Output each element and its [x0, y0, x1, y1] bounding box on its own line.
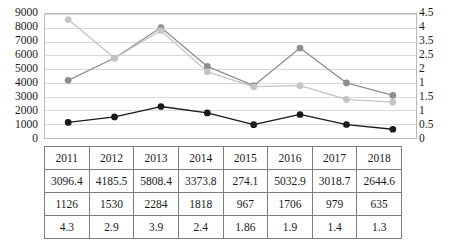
left-axis-tick-8: 1000 [15, 119, 38, 130]
table-header-cell: 2016 [268, 147, 313, 170]
data-point-marker [343, 96, 350, 103]
data-point-marker [111, 114, 118, 121]
table-cell: 1126 [45, 193, 90, 216]
table-header-cell: 2014 [178, 147, 223, 170]
gridline [45, 138, 416, 139]
table-cell: 2644.6 [357, 170, 402, 193]
right-axis-tick-3: 2.5 [419, 49, 433, 60]
table-cell: 1818 [178, 193, 223, 216]
data-point-marker [65, 16, 72, 23]
table-cell: 2.4 [178, 216, 223, 239]
data-point-marker [158, 27, 165, 34]
table-cell: 1.4 [312, 216, 357, 239]
table-cell: 1.86 [223, 216, 268, 239]
plot-area [44, 13, 417, 139]
left-axis-tick-0: 9000 [15, 7, 38, 18]
table-cell: 635 [357, 193, 402, 216]
right-y-axis: 4.543.52.5211.510.50 [419, 0, 464, 143]
table-cell: 2.9 [89, 216, 134, 239]
data-point-marker [297, 45, 304, 52]
data-table: 201120122013201420152016201720183096.441… [44, 146, 402, 239]
data-point-marker [343, 121, 350, 128]
table-cell: 1706 [268, 193, 313, 216]
data-table-wrapper: 201120122013201420152016201720183096.441… [44, 146, 402, 239]
left-axis-tick-7: 2000 [15, 105, 38, 116]
table-cell: 274.1 [223, 170, 268, 193]
data-point-marker [297, 111, 304, 118]
table-row: 11261530228418189671706979635 [45, 193, 402, 216]
right-axis-tick-8: 0.5 [419, 119, 433, 130]
table-cell: 2284 [134, 193, 179, 216]
data-point-marker [389, 126, 396, 133]
table-cell: 3.9 [134, 216, 179, 239]
right-axis-tick-0: 4.5 [419, 7, 433, 18]
series-layer [45, 14, 416, 138]
table-header-cell: 2011 [45, 147, 90, 170]
left-axis-tick-5: 4000 [15, 77, 38, 88]
table-cell: 3018.7 [312, 170, 357, 193]
table-header-cell: 2015 [223, 147, 268, 170]
right-axis-tick-4: 2 [419, 63, 425, 74]
right-axis-tick-5: 1 [419, 77, 425, 88]
table-cell: 1.9 [268, 216, 313, 239]
left-axis-tick-3: 6000 [15, 49, 38, 60]
left-axis-tick-6: 3000 [15, 91, 38, 102]
right-axis-tick-9: 0 [419, 133, 425, 144]
table-cell: 5032.9 [268, 170, 313, 193]
right-axis-tick-7: 1 [419, 105, 425, 116]
left-axis-tick-2: 7000 [15, 35, 38, 46]
chart-with-table: 9000800070006000500040003000200010000 4.… [0, 0, 464, 245]
table-cell: 3096.4 [45, 170, 90, 193]
data-point-marker [65, 77, 72, 84]
right-axis-tick-2: 3.5 [419, 35, 433, 46]
table-header-cell: 2017 [312, 147, 357, 170]
left-axis-tick-9: 0 [32, 133, 38, 144]
left-axis-tick-1: 8000 [15, 21, 38, 32]
line-chart: 9000800070006000500040003000200010000 4.… [0, 0, 464, 143]
table-row: 4.32.93.92.41.861.91.41.3 [45, 216, 402, 239]
data-point-marker [65, 119, 72, 126]
right-axis-tick-6: 1.5 [419, 91, 433, 102]
table-header-cell: 2012 [89, 147, 134, 170]
table-cell: 4.3 [45, 216, 90, 239]
table-cell: 5808.4 [134, 170, 179, 193]
right-axis-tick-1: 4 [419, 21, 425, 32]
table-header-cell: 2013 [134, 147, 179, 170]
data-point-marker [111, 55, 118, 62]
data-point-marker [343, 80, 350, 87]
table-cell: 979 [312, 193, 357, 216]
data-point-marker [250, 121, 257, 128]
data-point-marker [204, 69, 211, 76]
data-point-marker [158, 103, 165, 110]
table-header-row: 20112012201320142015201620172018 [45, 147, 402, 170]
data-point-marker [204, 110, 211, 117]
table-cell: 967 [223, 193, 268, 216]
data-point-marker [297, 82, 304, 89]
table-header-cell: 2018 [357, 147, 402, 170]
data-point-marker [250, 83, 257, 90]
table-cell: 1530 [89, 193, 134, 216]
left-axis-tick-4: 5000 [15, 63, 38, 74]
data-point-marker [389, 99, 396, 106]
table-cell: 4185.5 [89, 170, 134, 193]
table-row: 3096.44185.55808.43373.8274.15032.93018.… [45, 170, 402, 193]
table-cell: 3373.8 [178, 170, 223, 193]
table-cell: 1.3 [357, 216, 402, 239]
left-y-axis: 9000800070006000500040003000200010000 [0, 0, 42, 143]
data-point-marker [389, 92, 396, 99]
series-line-series-light-gray [68, 20, 393, 103]
